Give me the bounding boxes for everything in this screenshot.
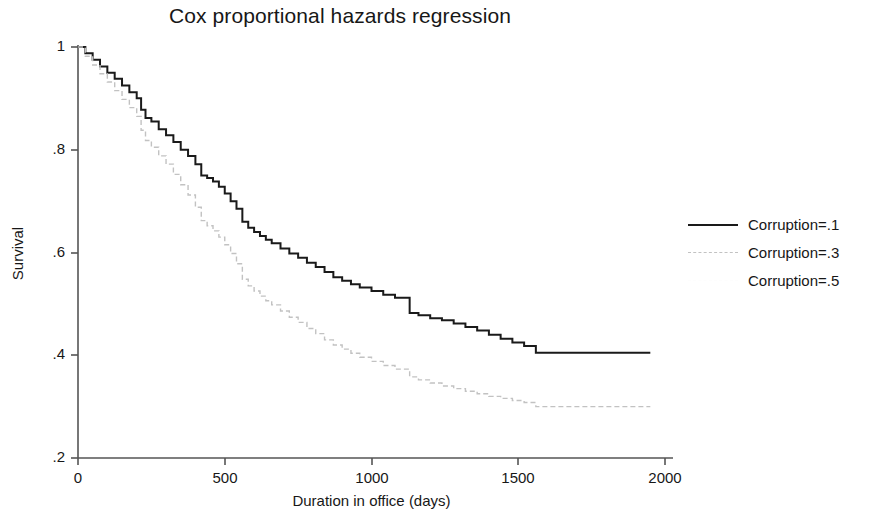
legend-line-swatch [688,246,738,258]
axis-lines [78,45,673,458]
x-tick-label: 1000 [342,469,402,486]
y-tick-label: .6 [25,243,65,260]
legend-item[interactable]: Corruption=.3 [688,238,839,266]
legend-label: Corruption=.5 [738,272,839,289]
legend-line-swatch [688,218,738,230]
y-axis-label: Survival [9,209,26,299]
chart-legend: Corruption=.1Corruption=.3Corruption=.5 [688,210,839,294]
x-tick-label: 1500 [488,469,548,486]
series-line [78,47,650,353]
series-lines [78,47,650,407]
x-tick-label: 2000 [635,469,695,486]
tick-marks [71,47,665,465]
y-tick-label: 1 [25,37,65,54]
x-tick-label: 0 [48,469,108,486]
y-tick-label: .8 [25,140,65,157]
legend-item[interactable]: Corruption=.5 [688,266,839,294]
legend-label: Corruption=.3 [738,244,839,261]
legend-label: Corruption=.1 [738,216,839,233]
x-tick-label: 500 [195,469,255,486]
x-axis-label: Duration in office (days) [78,492,665,509]
chart-figure: Cox proportional hazards regression 1.8.… [0,0,870,526]
legend-item[interactable]: Corruption=.1 [688,210,839,238]
legend-line-swatch [688,274,738,286]
y-tick-label: .2 [25,448,65,465]
y-tick-label: .4 [25,345,65,362]
